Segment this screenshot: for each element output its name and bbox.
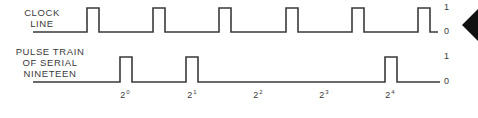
serial-waveform [33,57,440,82]
serial-low-level: 0 [444,76,449,86]
serial-high-level: 1 [444,51,449,61]
clock-high-level: 1 [444,2,449,12]
bit-label-2-pow-3: 23 [319,89,328,100]
clock-waveform [33,8,438,32]
clock-low-level: 0 [444,26,449,36]
bit-label-2-pow-0: 20 [120,89,129,100]
diamond-marker-icon [462,9,478,41]
bit-label-2-pow-1: 21 [187,89,196,100]
bit-label-2-pow-2: 22 [253,89,262,100]
bit-label-2-pow-4: 24 [385,89,394,100]
